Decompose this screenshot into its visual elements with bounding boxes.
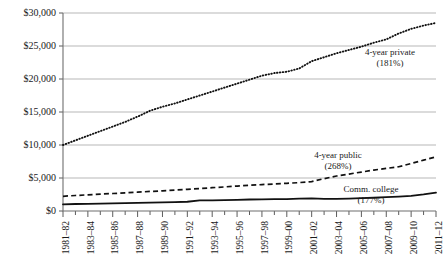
tuition-line-chart: $30,000$25,000$20,000$15,000$10,000$5,00… [0,0,445,277]
y-axis-tick-label: $15,000 [24,106,57,117]
y-axis-tick-label: $0 [46,205,56,216]
y-axis-tick-label: $25,000 [24,40,57,51]
y-axis-tick-label: $30,000 [24,7,57,18]
annotation-public-name: 4-year public [314,150,362,160]
annotation-comm-growth: (177%) [358,195,385,205]
y-axis-tick-label: $10,000 [24,139,57,150]
x-axis-tick-label: 1983–84 [86,221,96,255]
chart-canvas: $30,000$25,000$20,000$15,000$10,000$5,00… [0,0,445,277]
x-axis-tick-label: 1985–86 [110,221,120,255]
x-axis-tick-label: 2003–04 [334,221,344,255]
x-axis-tick-label: 1991–92 [185,221,195,255]
x-axis-tick-label: 2001–02 [309,221,319,255]
x-axis-tick-label: 2009–10 [409,221,419,255]
x-axis-tick-label: 2005–06 [359,221,369,255]
x-axis-tick-label: 1981–82 [61,221,71,255]
annotation-private-name: 4-year private [365,47,415,57]
x-axis-tick-label: 1999–00 [284,221,294,255]
annotation-private-growth: (181%) [377,58,404,68]
x-axis-tick-label: 1989–90 [160,221,170,255]
x-axis-tick-label: 1987–88 [135,221,145,255]
annotation-public-growth: (268%) [325,161,352,171]
x-axis-tick-label: 1995–96 [235,221,245,255]
x-axis-tick-label: 1997–98 [260,221,270,255]
annotation-comm-name: Comm. college [344,184,399,194]
x-axis-tick-label: 2007–08 [384,221,394,255]
y-axis-tick-label: $5,000 [29,172,57,183]
x-axis-tick-label: 2011–12 [434,221,444,254]
y-axis-tick-label: $20,000 [24,73,57,84]
x-axis-tick-label: 1993–94 [210,221,220,255]
